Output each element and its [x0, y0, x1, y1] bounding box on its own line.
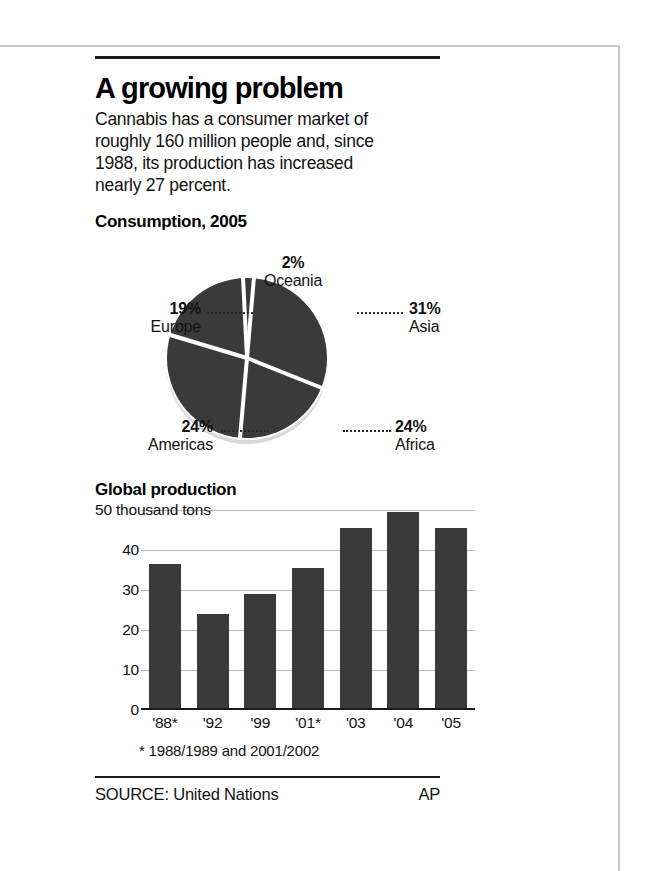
bar-88 [149, 564, 181, 710]
x-tick-label-2: '99 [237, 714, 283, 732]
y-tick-label-40: 40 [122, 541, 139, 559]
x-tick-label-6: '05 [428, 714, 474, 732]
source-row: SOURCE: United Nations AP [95, 785, 440, 804]
pie-label-africa: Africa [395, 436, 435, 454]
source-label: SOURCE: United Nations [95, 785, 279, 804]
pie-label-asia: Asia [409, 318, 440, 336]
y-tick-label-30: 30 [122, 581, 139, 599]
consumption-pie-chart: 2% Oceania 19% Europe 31% Asia 24% Ameri… [95, 236, 515, 474]
y-tick-label-50: 50 thousand tons [95, 501, 211, 519]
pie-value-europe: 19% [115, 300, 201, 318]
pie-value-africa: 24% [395, 418, 435, 436]
x-tick-label-5: '04 [380, 714, 426, 732]
pie-callout-africa: 24% Africa [395, 418, 435, 454]
pie-callout-europe: 19% Europe [115, 300, 201, 336]
agency-credit: AP [418, 785, 440, 804]
pie-section-title: Consumption, 2005 [95, 212, 515, 232]
x-axis-line [141, 708, 475, 710]
x-tick-label-0: '88* [142, 714, 188, 732]
leader-line-africa [343, 430, 391, 432]
x-axis-labels: '88*'92'99'01*'03'04'05 [141, 714, 475, 736]
pie-value-oceania: 2% [213, 254, 373, 272]
x-tick-label-1: '92 [190, 714, 236, 732]
global-production-bar-chart: Global production 01020304050 thousand t… [95, 480, 515, 759]
bar-03 [340, 528, 372, 710]
chart-footnote: * 1988/1989 and 2001/2002 [139, 742, 515, 759]
x-tick-label-4: '03 [333, 714, 379, 732]
leader-line-europe [207, 312, 253, 314]
infographic-card: A growing problem Cannabis has a consume… [95, 56, 515, 871]
y-tick-label-10: 10 [122, 661, 139, 679]
source-rule [95, 776, 440, 778]
pie-callout-americas: 24% Americas [103, 418, 213, 454]
pie-value-asia: 31% [409, 300, 440, 318]
bar-92 [197, 614, 229, 710]
bar-plot-area: 01020304050 thousand tons [141, 510, 475, 710]
gridline-40 [141, 550, 475, 551]
bar-05 [435, 528, 467, 710]
pie-value-americas: 24% [103, 418, 213, 436]
leader-line-americas [221, 430, 269, 432]
bar-section-title: Global production [95, 480, 515, 500]
bar-01 [292, 568, 324, 710]
pie-label-oceania: Oceania [213, 272, 373, 290]
bar-99 [244, 594, 276, 710]
pie-callout-oceania: 2% Oceania [213, 254, 373, 290]
page-title: A growing problem [95, 73, 515, 103]
y-tick-label-20: 20 [122, 621, 139, 639]
pie-label-americas: Americas [103, 436, 213, 454]
deck-paragraph: Cannabis has a consumer market of roughl… [95, 109, 395, 196]
bar-04 [387, 512, 419, 710]
x-tick-label-3: '01* [285, 714, 331, 732]
pie-label-europe: Europe [115, 318, 201, 336]
y-tick-label-0: 0 [131, 701, 139, 719]
pie-callout-asia: 31% Asia [409, 300, 440, 336]
top-rule [95, 56, 440, 59]
leader-line-asia [357, 312, 403, 314]
